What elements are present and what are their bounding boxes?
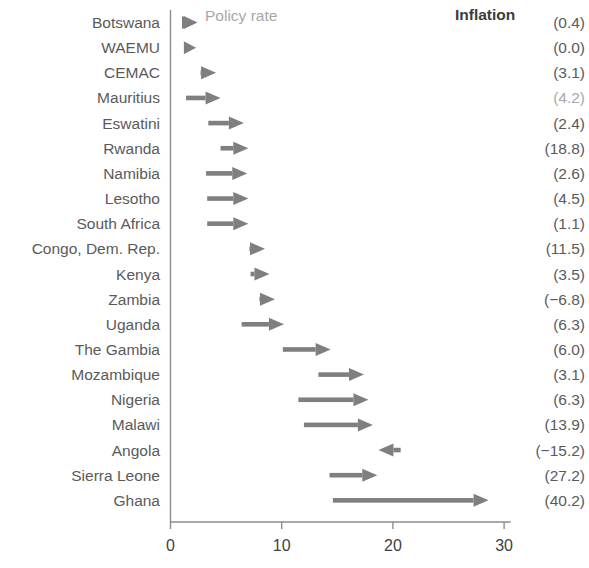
inflation-value: (3.5) [489, 267, 585, 283]
inflation-value: (6.0) [489, 342, 585, 358]
category-label: Mauritius [0, 90, 160, 106]
arrow-marker [283, 343, 331, 356]
category-label: Congo, Dem. Rep. [0, 241, 160, 257]
arrow-marker [206, 167, 247, 180]
inflation-value: (1.1) [489, 216, 585, 232]
x-tick-label: 20 [384, 538, 402, 554]
inflation-value: (40.2) [489, 493, 585, 509]
arrow-marker [207, 217, 248, 230]
arrow-marker [208, 117, 244, 130]
inflation-value: (0.0) [489, 40, 585, 56]
inflation-value: (0.4) [489, 15, 585, 31]
category-label: Sierra Leone [0, 468, 160, 484]
category-label: Lesotho [0, 191, 160, 207]
category-label: Malawi [0, 417, 160, 433]
inflation-value: (4.5) [489, 191, 585, 207]
arrow-range-chart: Policy rate Inflation BotswanaWAEMUCEMAC… [0, 0, 589, 568]
arrow-marker [249, 242, 265, 255]
inflation-value: (−15.2) [489, 443, 585, 459]
inflation-value: (2.4) [489, 116, 585, 132]
inflation-value: (2.6) [489, 166, 585, 182]
arrow-marker [333, 494, 489, 507]
inflation-value: (6.3) [489, 392, 585, 408]
arrow-marker [201, 66, 217, 79]
inflation-value: (13.9) [489, 417, 585, 433]
category-label: Botswana [0, 15, 160, 31]
category-label: CEMAC [0, 65, 160, 81]
arrow-marker [221, 142, 249, 155]
arrow-marker [378, 444, 400, 457]
arrow-marker [242, 318, 284, 331]
inflation-value: (18.8) [489, 141, 585, 157]
arrow-marker [298, 393, 368, 406]
axis-lines [171, 10, 511, 522]
category-label: Uganda [0, 317, 160, 333]
x-tick-label: 10 [273, 538, 291, 554]
arrow-marker [330, 469, 378, 482]
category-label: Rwanda [0, 141, 160, 157]
arrow-marker [251, 268, 270, 281]
inflation-value: (27.2) [489, 468, 585, 484]
arrow-marker [207, 192, 248, 205]
category-label: Eswatini [0, 116, 160, 132]
arrow-marker [259, 293, 275, 306]
x-tick-label: 0 [166, 538, 175, 554]
arrow-marker [186, 91, 220, 104]
inflation-value: (6.3) [489, 317, 585, 333]
arrow-marker [304, 418, 373, 431]
category-label: Namibia [0, 166, 160, 182]
arrow-marker [318, 368, 364, 381]
category-label: WAEMU [0, 40, 160, 56]
inflation-value: (−6.8) [489, 292, 585, 308]
category-label: Zambia [0, 292, 160, 308]
category-label: Angola [0, 443, 160, 459]
inflation-value: (3.1) [489, 65, 585, 81]
inflation-value: (11.5) [489, 241, 585, 257]
arrow-marker [184, 41, 196, 54]
inflation-value: (3.1) [489, 367, 585, 383]
inflation-value: (4.2) [489, 90, 585, 106]
category-label: South Africa [0, 216, 160, 232]
category-label: Kenya [0, 267, 160, 283]
category-label: The Gambia [0, 342, 160, 358]
legend-arrow-icon [182, 16, 197, 29]
x-tick-label: 30 [495, 538, 513, 554]
category-label: Ghana [0, 493, 160, 509]
category-label: Mozambique [0, 367, 160, 383]
category-label: Nigeria [0, 392, 160, 408]
